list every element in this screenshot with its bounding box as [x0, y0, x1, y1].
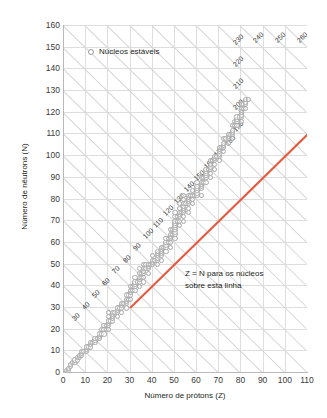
- nucleus-marker: [159, 258, 164, 263]
- z-equals-n-annotation: Z = N para os núcleos sobre esta linha: [185, 268, 305, 291]
- horizontal-gridline: [63, 242, 307, 243]
- y-tick-label: 110: [34, 129, 60, 138]
- x-tick-label: 90: [251, 376, 275, 385]
- y-tick-label: 100: [34, 151, 60, 160]
- y-tick-label: 130: [34, 86, 60, 95]
- y-tick-label: 60: [34, 238, 60, 247]
- plot-area: 3040506070809010011012013014015016017018…: [63, 25, 307, 372]
- x-tick-label: 70: [206, 376, 230, 385]
- mass-number-label: 90: [131, 241, 141, 251]
- horizontal-gridline: [63, 350, 307, 351]
- mass-diagonal-line: [63, 25, 307, 264]
- annotation-line-1: Z = N para os núcleos: [185, 268, 305, 280]
- x-tick-label: 40: [140, 376, 164, 385]
- nucleus-marker: [124, 305, 129, 310]
- y-axis-title: Número de nêutrons (N): [20, 117, 29, 257]
- nucleus-marker: [141, 279, 146, 284]
- horizontal-gridline: [63, 307, 307, 308]
- nucleus-marker: [168, 245, 173, 250]
- nucleus-marker: [181, 219, 186, 224]
- chart-legend: Núcleos estáveis: [88, 47, 159, 56]
- nucleus-marker: [190, 201, 195, 206]
- mass-number-label: 230: [231, 33, 244, 46]
- y-tick-label: 40: [34, 281, 60, 290]
- x-tick-label: 60: [184, 376, 208, 385]
- mass-number-label: 40: [80, 300, 90, 310]
- mass-number-label: 110: [152, 216, 165, 229]
- x-tick-label: 20: [95, 376, 119, 385]
- horizontal-gridline: [63, 264, 307, 265]
- mass-diagonal-line: [63, 112, 307, 351]
- nucleus-marker: [186, 206, 191, 211]
- nucleus-marker: [168, 240, 173, 245]
- nucleus-marker: [181, 214, 186, 219]
- horizontal-gridline: [63, 112, 307, 113]
- mass-number-label: 30: [70, 312, 80, 322]
- nucleus-marker: [101, 331, 106, 336]
- mass-number-label: 260: [296, 31, 307, 44]
- horizontal-gridline: [63, 133, 307, 134]
- y-tick-label: 140: [34, 64, 60, 73]
- nucleus-marker: [199, 193, 204, 198]
- x-axis-title: Número de prótons (Z): [63, 391, 307, 400]
- mass-number-label: 210: [231, 76, 244, 89]
- y-tick-label: 20: [34, 325, 60, 334]
- y-tick-label: 120: [34, 108, 60, 117]
- x-tick-label: 100: [273, 376, 297, 385]
- horizontal-gridline: [63, 25, 307, 26]
- mass-number-label: 50: [90, 288, 100, 298]
- y-tick-label: 150: [34, 43, 60, 52]
- legend-marker-icon: [88, 49, 94, 55]
- mass-number-label: 70: [111, 265, 121, 275]
- y-tick-label: 160: [34, 21, 60, 30]
- annotation-line-2: sobre esta linha: [185, 280, 305, 292]
- horizontal-gridline: [63, 177, 307, 178]
- horizontal-gridline: [63, 68, 307, 69]
- x-tick-label: 50: [162, 376, 186, 385]
- legend-label: Núcleos estáveis: [99, 47, 159, 56]
- x-tick-label: 110: [295, 376, 319, 385]
- nuclide-chart-figure: 3040506070809010011012013014015016017018…: [0, 0, 327, 418]
- nucleus-marker: [230, 128, 235, 133]
- x-tick-label: 30: [118, 376, 142, 385]
- y-tick-label: 30: [34, 303, 60, 312]
- x-tick-label: 0: [51, 376, 75, 385]
- mass-diagonal-line: [195, 25, 307, 134]
- y-tick-label: 80: [34, 195, 60, 204]
- nucleus-marker: [226, 141, 231, 146]
- mass-number-label: 220: [231, 55, 244, 68]
- x-tick-label: 10: [73, 376, 97, 385]
- nucleus-marker: [212, 167, 217, 172]
- nucleus-marker: [203, 180, 208, 185]
- nucleus-marker: [146, 271, 151, 276]
- horizontal-gridline: [63, 155, 307, 156]
- y-tick-label: 70: [34, 216, 60, 225]
- y-tick-label: 10: [34, 346, 60, 355]
- nucleus-marker: [246, 97, 251, 102]
- x-tick-label: 80: [228, 376, 252, 385]
- mass-diagonal-line: [63, 47, 307, 286]
- horizontal-gridline: [63, 90, 307, 91]
- y-tick-label: 50: [34, 260, 60, 269]
- y-tick-label: 90: [34, 173, 60, 182]
